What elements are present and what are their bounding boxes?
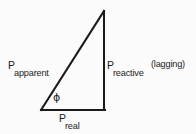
label-reactive-subscript: reactive (113, 69, 144, 78)
label-apparent-subscript: apparent (14, 69, 49, 78)
hypotenuse-apparent-power (41, 11, 104, 110)
label-real-subscript: real (65, 122, 80, 131)
power-triangle-figure: P apparent P reactive (lagging) P real ϕ (0, 0, 196, 134)
label-phase-angle-phi: ϕ (53, 92, 60, 103)
label-reactive-note: (lagging) (151, 60, 185, 69)
